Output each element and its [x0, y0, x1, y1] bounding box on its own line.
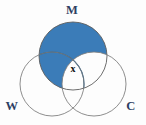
venn-diagram-canvas: M W C x	[0, 0, 146, 125]
region-label-triple-intersection: x	[71, 63, 76, 74]
set-label-m: M	[66, 3, 78, 17]
set-label-w: W	[6, 99, 19, 113]
venn-diagram-figure: M W C x	[0, 0, 146, 125]
set-label-c: C	[126, 99, 135, 113]
